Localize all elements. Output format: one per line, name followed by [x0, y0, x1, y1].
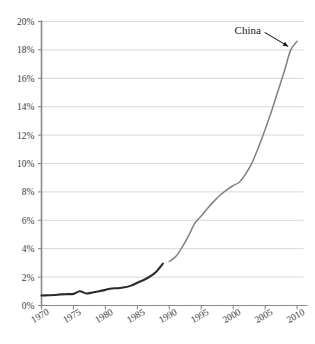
y-tick-label: 18% — [17, 45, 35, 55]
y-tick-label: 2% — [22, 273, 35, 283]
y-tick-label: 4% — [22, 244, 35, 254]
chart-container: 0%2%4%6%8%10%12%14%16%18%20% 19701975198… — [0, 0, 315, 344]
y-tick-label: 6% — [22, 216, 35, 226]
annotation-label: China — [235, 24, 261, 36]
y-tick-label: 0% — [22, 301, 35, 311]
y-tick-label: 10% — [17, 159, 35, 169]
y-tick-label: 8% — [22, 187, 35, 197]
chart-background — [0, 0, 315, 344]
y-tick-label: 12% — [17, 131, 35, 141]
line-chart: 0%2%4%6%8%10%12%14%16%18%20% 19701975198… — [0, 0, 315, 344]
y-tick-label: 20% — [17, 17, 35, 27]
y-tick-label: 14% — [17, 102, 35, 112]
y-tick-label: 16% — [17, 74, 35, 84]
